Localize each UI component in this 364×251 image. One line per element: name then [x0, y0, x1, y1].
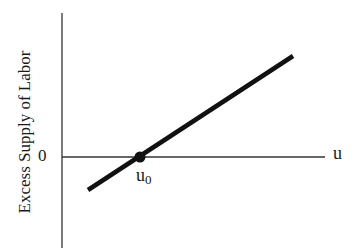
equilibrium-point-label: u0 — [136, 165, 152, 188]
equilibrium-point-marker — [135, 152, 146, 163]
point-label-main: u — [136, 165, 145, 185]
excess-supply-line — [88, 56, 293, 190]
y-tick-zero: 0 — [38, 146, 47, 166]
chart-canvas — [0, 0, 364, 251]
x-axis-label: u — [333, 143, 342, 164]
y-axis-label: Excess Supply of Labor — [15, 51, 35, 214]
point-label-subscript: 0 — [145, 172, 152, 187]
